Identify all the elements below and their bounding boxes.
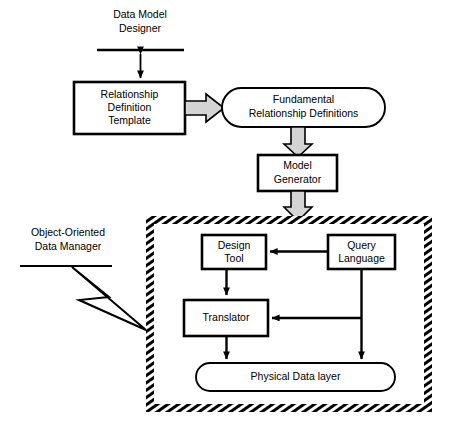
annotation-label-line-1: Object-Oriented [31,226,105,238]
block-arrow-right-icon [185,94,224,122]
edge-query-to-translator [272,269,362,318]
node-label-line-2: Tool [224,252,243,264]
node-physical-data-layer[interactable]: Physical Data layer [196,363,395,391]
node-label-line-2: Relationship Definitions [249,107,359,119]
annotation-label-line-2: Data Manager [35,240,102,252]
node-label-line-3: Template [108,114,151,126]
node-model-generator[interactable]: Model Generator [258,155,337,191]
node-design-tool[interactable]: Design Tool [202,235,266,269]
annotation-label-line-1: Data Model [113,8,167,20]
node-query-language[interactable]: Query Language [328,235,395,269]
node-label-line-1: Model [283,159,312,171]
annotation-object-oriented-data-manager: Object-Oriented Data Manager [20,226,146,330]
node-label-line-1: Fundamental [273,93,334,105]
annotation-label-line-2: Designer [119,22,162,34]
architecture-diagram: Data Model Designer Relationship Definit… [0,0,453,430]
annotation-data-model-designer: Data Model Designer [97,8,184,50]
zigzag-leader-icon [72,267,146,330]
node-label-line-1: Design [218,239,251,251]
node-label-line-1: Translator [203,311,250,323]
node-label-line-1: Relationship [101,88,159,100]
node-fundamental-relationship-definitions[interactable]: Fundamental Relationship Definitions [222,88,385,127]
node-label-line-2: Language [338,252,385,264]
node-label-line-1: Query [347,239,376,251]
node-label-line-1: Physical Data layer [251,370,341,382]
edge-template-to-definitions [185,94,224,122]
diagram-canvas: Data Model Designer Relationship Definit… [0,0,453,430]
block-arrow-down-icon [284,127,312,157]
node-translator[interactable]: Translator [184,300,268,336]
node-label-line-2: Definition [108,101,152,113]
node-label-line-2: Generator [274,173,322,185]
node-relationship-definition-template[interactable]: Relationship Definition Template [74,82,185,134]
edge-definitions-to-generator [284,127,312,157]
